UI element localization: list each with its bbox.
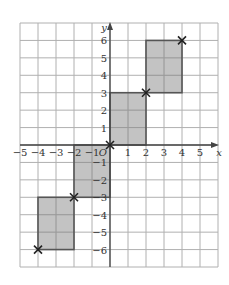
x-tick-label: 5: [197, 147, 203, 158]
x-tick-label: −3: [49, 147, 64, 158]
y-tick-label: −1: [92, 157, 107, 168]
x-tick-label: 2: [143, 147, 149, 158]
y-tick-label: 6: [101, 35, 107, 46]
y-tick-label: 4: [101, 70, 107, 81]
y-tick-label: 2: [101, 105, 107, 116]
x-tick-label: −1: [85, 147, 100, 158]
x-tick-label: −4: [31, 147, 46, 158]
y-tick-label: −4: [92, 210, 107, 221]
x-axis-label: x: [216, 147, 222, 158]
x-tick-label: −5: [13, 147, 28, 158]
y-tick-label: −6: [92, 245, 107, 256]
x-tick-label: −2: [67, 147, 82, 158]
y-tick-label: −3: [92, 192, 107, 203]
x-tick-label: 1: [125, 147, 131, 158]
y-tick-label: 1: [101, 123, 107, 134]
y-axis-label: y: [100, 22, 107, 33]
x-tick-label: 4: [179, 147, 185, 158]
y-tick-label: 5: [101, 53, 107, 64]
y-tick-label: −2: [92, 175, 107, 186]
x-tick-label: 3: [161, 147, 167, 158]
y-tick-label: −5: [92, 227, 107, 238]
y-tick-label: 3: [101, 88, 107, 99]
coordinate-grid: −5−4−3−2−112345654321−1−2−3−4−5−6Oxy: [0, 0, 229, 285]
